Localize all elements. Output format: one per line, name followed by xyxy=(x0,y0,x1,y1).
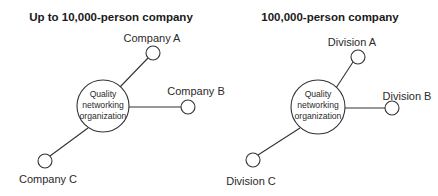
right-diagram-title: 100,000-person company xyxy=(261,11,399,23)
left-diagram-title: Up to 10,000-person company xyxy=(29,11,193,23)
left-hub-line-2: networking xyxy=(82,100,124,110)
left-hub-line-1: Quality xyxy=(90,89,117,99)
right-node-a-circle xyxy=(351,50,365,64)
right-hub-line-2: networking xyxy=(297,100,339,110)
right-node-a-label: Division A xyxy=(328,36,377,48)
left-node-c-circle xyxy=(38,154,52,168)
right-node-b-label: Division B xyxy=(383,90,432,102)
right-node-b-circle xyxy=(385,101,399,115)
right-connector-c xyxy=(258,128,300,155)
left-node-a-circle xyxy=(146,46,160,60)
left-hub-line-3: organization xyxy=(80,111,127,121)
right-hub-line-1: Quality xyxy=(305,89,332,99)
right-hub-line-3: organization xyxy=(295,111,342,121)
right-node-c-circle xyxy=(246,153,260,167)
left-node-c-label: Company C xyxy=(19,173,77,185)
left-diagram: Up to 10,000-person company Quality netw… xyxy=(19,11,225,185)
right-connector-a xyxy=(336,62,353,88)
right-node-c-label: Division C xyxy=(226,175,276,187)
left-node-b-circle xyxy=(181,100,195,114)
left-connector-c xyxy=(50,128,88,156)
right-diagram: 100,000-person company Quality networkin… xyxy=(226,11,431,187)
diagram-canvas: Up to 10,000-person company Quality netw… xyxy=(0,0,438,196)
left-node-a-label: Company A xyxy=(124,32,182,44)
left-node-b-label: Company B xyxy=(167,85,224,97)
left-connector-a xyxy=(120,58,148,87)
